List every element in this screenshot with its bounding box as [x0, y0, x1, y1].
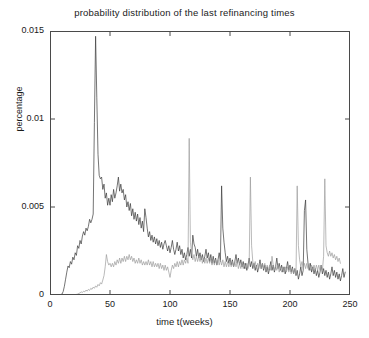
chart-figure: probability distribution of the last ref… [0, 0, 369, 338]
y-tick-label: 0.005 [0, 201, 44, 211]
plot-area [50, 31, 350, 295]
x-tick-label: 0 [30, 299, 70, 309]
plot-svg [50, 31, 350, 295]
y-tick-label: 0.01 [0, 113, 44, 123]
series-layer [50, 36, 345, 295]
series-line-dark-series [50, 36, 345, 295]
y-tick-label: 0 [0, 289, 44, 299]
x-axis-label: time t(weeks) [0, 316, 369, 327]
x-tick-label: 50 [90, 299, 130, 309]
x-tick-label: 250 [330, 299, 369, 309]
y-axis-label: percentage [14, 54, 24, 164]
chart-title: probability distribution of the last ref… [0, 7, 369, 18]
y-tick-label: 0.015 [0, 25, 44, 35]
x-tick-label: 150 [210, 299, 250, 309]
x-tick-label: 200 [270, 299, 310, 309]
x-tick-label: 100 [150, 299, 190, 309]
